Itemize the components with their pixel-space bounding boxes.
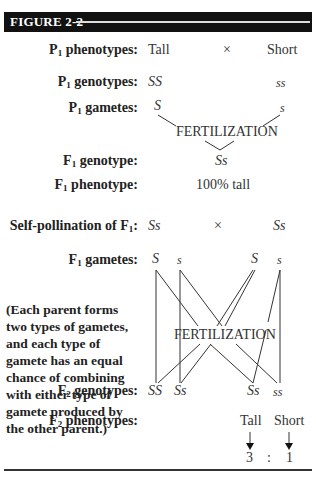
footer-rule [4,469,312,471]
cross-lines [0,0,316,485]
